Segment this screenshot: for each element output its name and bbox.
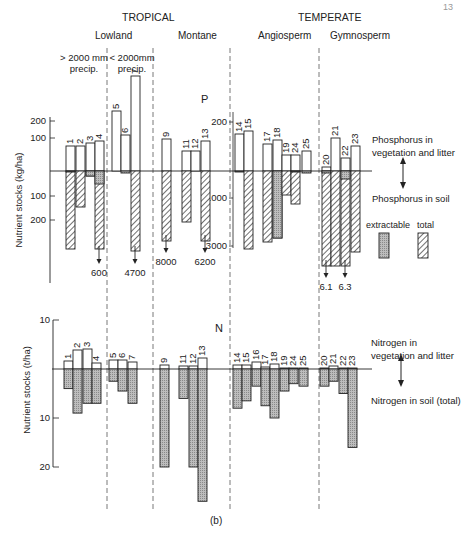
p-total-bar-15	[244, 171, 253, 249]
n-soil-bar-4	[92, 369, 101, 403]
n-soil-bar-6	[118, 369, 127, 391]
p-veg-bar-24	[291, 155, 300, 171]
offscale-label-9: 8000	[155, 256, 176, 267]
offscale-label-13: 6200	[194, 256, 215, 267]
svg-text:12: 12	[189, 138, 200, 149]
p-title: P	[201, 93, 208, 105]
p-extract-bar-25	[302, 171, 311, 173]
p-extract-bar-24	[291, 171, 300, 172]
n-soil-bar-5	[109, 369, 118, 381]
n-veg-bar-9	[160, 365, 169, 369]
p-extract-bar-14	[235, 171, 244, 172]
p-veg-bar-19	[282, 155, 291, 171]
p-extract-bar-18	[273, 171, 282, 238]
n-soil-bar-1	[64, 369, 73, 389]
svg-text:100: 100	[30, 190, 46, 201]
svg-text:10: 10	[39, 412, 50, 423]
n-soil-bar-16	[252, 369, 261, 386]
svg-text:1: 1	[62, 354, 73, 359]
svg-text:9: 9	[160, 132, 171, 137]
svg-text:25: 25	[300, 138, 311, 149]
n-soil-bar-23	[348, 369, 357, 447]
svg-text:7: 7	[126, 355, 137, 360]
p-veg-bar-3	[86, 143, 95, 171]
p-total-bar-9	[162, 171, 171, 241]
p-total-bar-24	[291, 171, 300, 204]
n-soil-bar-9	[160, 369, 169, 467]
p-extract-bar-1	[66, 171, 75, 172]
legend-total-swatch	[418, 233, 428, 258]
p-total-bar-7	[131, 171, 140, 251]
svg-text:13: 13	[199, 128, 210, 139]
n-soil-bar-14	[233, 369, 242, 408]
svg-text:25: 25	[297, 355, 308, 366]
svg-text:N: N	[215, 322, 223, 334]
svg-text:21: 21	[329, 125, 340, 136]
n-veg-bar-6	[118, 360, 127, 369]
legend-extractable-swatch	[379, 233, 389, 258]
svg-text:5: 5	[110, 104, 121, 109]
n-soil-bar-19	[280, 369, 289, 391]
legend-extractable-label: extractable	[366, 220, 410, 230]
n-soil-bar-17	[261, 369, 270, 406]
p-veg-bar-22	[341, 158, 350, 171]
n-soil-bar-18	[270, 369, 279, 418]
offscale-label-22: 6.3	[338, 281, 351, 292]
n-soil-bar-15	[242, 369, 251, 401]
p-total-bar-20	[322, 171, 331, 266]
n-veg-bar-4	[92, 363, 101, 369]
p-veg-bar-13	[201, 141, 210, 171]
n-soil-bar-24	[289, 369, 298, 384]
svg-text:23: 23	[346, 355, 357, 366]
svg-text:Nutrient stocks (kg/ha): Nutrient stocks (kg/ha)	[13, 152, 24, 247]
p-total-bar-19	[282, 171, 291, 195]
p-veg-bar-4	[95, 141, 104, 171]
offscale-label-20: 6.1	[319, 281, 332, 292]
p-veg-bar-1	[66, 146, 75, 171]
n-veg-bar-11	[179, 366, 188, 369]
n-soil-bar-21	[329, 369, 338, 381]
n-soil-bar-12	[189, 369, 198, 467]
svg-text:200: 200	[211, 116, 227, 127]
n-veg-bar-14	[233, 365, 242, 369]
figure-caption: (b)	[210, 515, 222, 526]
p-extract-bar-3	[86, 171, 95, 176]
n-soil-bar-25	[299, 369, 308, 386]
svg-text:200: 200	[30, 115, 46, 126]
p-veg-bar-25	[302, 151, 311, 171]
p-total-bar-11	[182, 171, 191, 222]
n-soil-bar-2	[73, 369, 82, 413]
n-veg-bar-12	[189, 366, 198, 369]
p-total-bar-21	[331, 171, 340, 266]
svg-text:20: 20	[39, 461, 50, 472]
svg-text:24: 24	[289, 142, 300, 153]
header-wet-precip: > 2000 mm precip.	[60, 52, 108, 74]
offscale-label-4: 600	[91, 267, 107, 278]
n-veg-bar-5	[109, 360, 118, 369]
p-extract-bar-20	[322, 171, 331, 173]
figure: P10020010020020010003000Nutrient stocks …	[0, 0, 464, 538]
p-veg-bar-20	[322, 167, 331, 171]
page-number: 13	[443, 2, 453, 12]
svg-text:9: 9	[158, 358, 169, 363]
svg-text:100: 100	[30, 132, 46, 143]
svg-text:200: 200	[30, 214, 46, 225]
svg-text:20: 20	[320, 154, 331, 165]
p-total-bar-22	[341, 171, 350, 266]
legend-n-vegetation: Nitrogen in vegetation and litter	[371, 336, 463, 362]
chart-canvas: P10020010020020010003000Nutrient stocks …	[0, 0, 464, 538]
svg-text:4: 4	[90, 356, 101, 361]
p-extract-bar-6	[121, 171, 130, 173]
svg-text:23: 23	[349, 133, 360, 144]
svg-text:18: 18	[271, 127, 282, 138]
svg-text:10: 10	[39, 314, 50, 325]
svg-text:4: 4	[93, 134, 104, 139]
n-veg-bar-2	[73, 350, 82, 369]
svg-text:13: 13	[196, 345, 207, 356]
header-tropical: TROPICAL	[122, 11, 175, 23]
n-soil-bar-22	[339, 369, 348, 394]
p-veg-bar-7	[131, 76, 140, 171]
nitrogen-chart: N101020Nutrient stocks (t/ha)12345679111…	[21, 314, 404, 501]
header-montane: Montane	[178, 30, 217, 41]
svg-text:22: 22	[339, 145, 350, 156]
